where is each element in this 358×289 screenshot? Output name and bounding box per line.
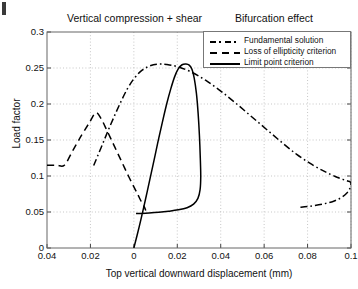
x-tick-label: 0.1 — [331, 250, 358, 261]
legend-label: Loss of ellipticity criterion — [244, 46, 336, 56]
legend: Fundamental solutionLoss of ellipticity … — [203, 31, 351, 68]
x-tick-label: 0.06 — [244, 250, 284, 261]
legend-swatch-dashed — [210, 52, 240, 54]
x-tick-label: 0.04 — [27, 250, 67, 261]
legend-swatch-solid — [210, 63, 240, 65]
legend-swatch-dash-dot — [210, 41, 240, 43]
x-tick-label: 0.02 — [157, 250, 197, 261]
x-tick-label: 0.02 — [70, 250, 110, 261]
chart-figure: Vertical compression + shear Bifurcation… — [0, 0, 358, 289]
x-tick-label: 0.08 — [288, 250, 328, 261]
x-tick-label: 0 — [114, 250, 154, 261]
legend-label: Limit point criterion — [244, 57, 314, 67]
x-tick-label: 0.04 — [201, 250, 241, 261]
legend-label: Fundamental solution — [244, 35, 323, 45]
legend-item: Limit point criterion — [208, 58, 350, 69]
